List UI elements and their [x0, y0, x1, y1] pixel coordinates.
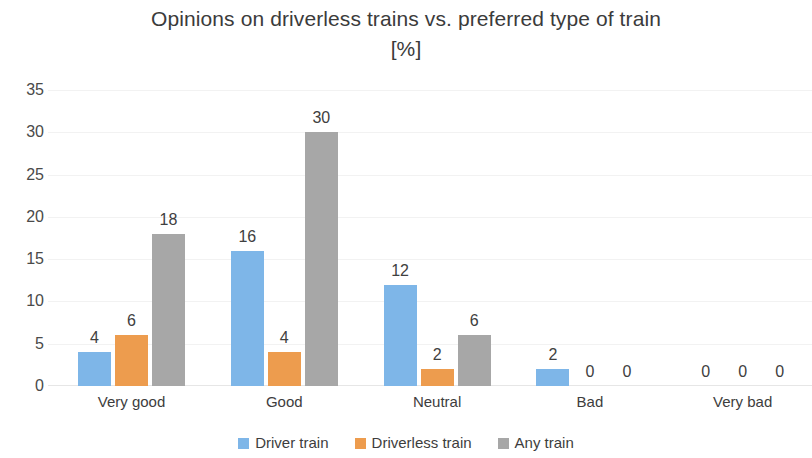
bar-value-label: 0 — [726, 364, 759, 380]
plot-area: 4618164301226200000 — [48, 90, 812, 386]
y-axis-tick-label: 5 — [4, 336, 44, 352]
bar-value-label: 6 — [115, 313, 148, 329]
bar[interactable] — [458, 335, 491, 386]
bar[interactable] — [231, 251, 264, 386]
chart-title-line-1: Opinions on driverless trains vs. prefer… — [151, 7, 661, 30]
bar[interactable] — [384, 285, 417, 386]
gridline — [48, 175, 812, 176]
x-axis-category-label: Bad — [520, 392, 660, 412]
y-axis-tick-label: 35 — [4, 82, 44, 98]
bar[interactable] — [78, 352, 111, 386]
y-axis: 05101520253035 — [0, 90, 44, 386]
y-axis-tick-label: 20 — [4, 209, 44, 225]
bar-value-label: 0 — [573, 364, 606, 380]
x-axis-category-label: Very bad — [673, 392, 812, 412]
x-axis-category-label: Neutral — [367, 392, 507, 412]
bar-value-label: 0 — [763, 364, 796, 380]
legend-item-label: Any train — [515, 434, 574, 452]
bar-value-label: 4 — [268, 330, 301, 346]
y-axis-tick-label: 10 — [4, 293, 44, 309]
legend-item[interactable]: Driverless train — [355, 434, 472, 452]
gridline — [48, 90, 812, 91]
bar-value-label: 0 — [689, 364, 722, 380]
x-axis-category-label: Very good — [62, 392, 202, 412]
chart-legend: Driver trainDriverless trainAny train — [0, 432, 812, 454]
bar-value-label: 2 — [421, 347, 454, 363]
y-axis-tick-label: 30 — [4, 124, 44, 140]
bar-value-label: 2 — [536, 347, 569, 363]
bar[interactable] — [536, 369, 569, 386]
chart-title: Opinions on driverless trains vs. prefer… — [0, 4, 812, 64]
legend-item[interactable]: Driver train — [238, 434, 328, 452]
gridline — [48, 132, 812, 133]
y-axis-tick-label: 0 — [4, 378, 44, 394]
bar[interactable] — [152, 234, 185, 386]
legend-swatch-any-train — [498, 438, 509, 449]
y-axis-tick-label: 25 — [4, 167, 44, 183]
bar-value-label: 12 — [384, 263, 417, 279]
bar-value-label: 0 — [610, 364, 643, 380]
legend-swatch-driverless-train — [355, 438, 366, 449]
legend-item[interactable]: Any train — [498, 434, 574, 452]
y-axis-tick-label: 15 — [4, 251, 44, 267]
x-axis-category-label: Good — [214, 392, 354, 412]
bar-value-label: 16 — [231, 229, 264, 245]
bar-value-label: 6 — [458, 313, 491, 329]
bar[interactable] — [115, 335, 148, 386]
bar[interactable] — [305, 132, 338, 386]
bar-chart: Opinions on driverless trains vs. prefer… — [0, 0, 812, 458]
legend-item-label: Driver train — [255, 434, 328, 452]
legend-item-label: Driverless train — [372, 434, 472, 452]
legend-swatch-driver-train — [238, 438, 249, 449]
bar[interactable] — [268, 352, 301, 386]
x-axis: Very goodGoodNeutralBadVery bad — [48, 392, 812, 416]
bar[interactable] — [421, 369, 454, 386]
bar-value-label: 30 — [305, 110, 338, 126]
bar-value-label: 4 — [78, 330, 111, 346]
chart-title-line-2: [%] — [0, 34, 812, 64]
bar-value-label: 18 — [152, 212, 185, 228]
